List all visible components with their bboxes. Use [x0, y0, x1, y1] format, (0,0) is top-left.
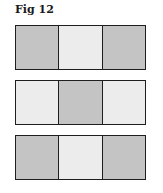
square-1-2 [58, 26, 101, 69]
square-3-2 [58, 136, 101, 179]
square-1-1 [16, 26, 58, 69]
square-2-3 [102, 81, 145, 124]
square-3-1 [16, 136, 58, 179]
figure-title: Fig 12 [15, 3, 54, 16]
square-2-2 [58, 81, 101, 124]
strip-row-2 [15, 80, 146, 125]
square-3-3 [102, 136, 145, 179]
square-1-3 [102, 26, 145, 69]
strip-row-3 [15, 135, 146, 180]
strip-row-1 [15, 25, 146, 70]
square-2-1 [16, 81, 58, 124]
